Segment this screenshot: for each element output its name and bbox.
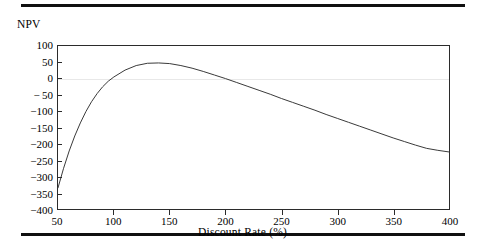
npv-curve [58, 46, 449, 209]
y-tick-mark [57, 177, 62, 178]
y-tick-label: − 50 [13, 90, 53, 101]
y-axis-ticks: 100500− 50−100−150−200−250−300−350−400 [10, 45, 53, 210]
y-tick-label: −350 [13, 189, 53, 200]
x-tick-mark [169, 210, 170, 215]
y-tick-mark [57, 128, 62, 129]
x-axis-title: Discount Rate (%) [0, 226, 485, 238]
y-tick-mark [57, 95, 62, 96]
x-tick-mark [113, 210, 114, 215]
y-tick-mark [57, 194, 62, 195]
y-tick-label: 100 [13, 40, 53, 51]
chart-figure: NPV 100500− 50−100−150−200−250−300−350−4… [0, 14, 485, 228]
y-tick-label: −250 [13, 156, 53, 167]
y-tick-mark [57, 78, 62, 79]
x-tick-mark [394, 210, 395, 215]
y-tick-label: −200 [13, 139, 53, 150]
y-tick-mark [57, 144, 62, 145]
y-tick-mark [57, 62, 62, 63]
x-tick-mark [282, 210, 283, 215]
y-tick-label: −300 [13, 172, 53, 183]
y-tick-mark [57, 111, 62, 112]
y-tick-label: 50 [13, 57, 53, 68]
y-tick-mark [57, 161, 62, 162]
y-axis-title: NPV [17, 18, 41, 30]
y-tick-label: −100 [13, 106, 53, 117]
y-tick-label: 0 [13, 73, 53, 84]
plot-area [57, 45, 450, 210]
x-tick-mark [225, 210, 226, 215]
y-tick-label: −150 [13, 123, 53, 134]
x-tick-mark [338, 210, 339, 215]
top-rule [21, 4, 465, 7]
